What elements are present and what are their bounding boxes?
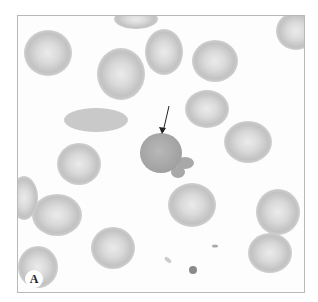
red-blood-cell [57, 143, 101, 185]
abnormal-cell [140, 133, 194, 178]
red-blood-cell [256, 189, 300, 235]
blood-smear-image [18, 16, 304, 292]
red-blood-cell [224, 121, 272, 163]
platelet [189, 266, 197, 274]
red-blood-cell [248, 233, 292, 273]
arrow-icon [159, 106, 169, 134]
red-blood-cell [114, 16, 158, 29]
red-blood-cell [32, 194, 82, 236]
red-blood-cell [24, 30, 72, 76]
red-blood-cell [64, 108, 128, 132]
red-blood-cell [185, 90, 229, 128]
debris [164, 256, 173, 264]
red-blood-cell [145, 29, 183, 75]
micrograph-frame: A [17, 15, 305, 293]
red-blood-cell [192, 40, 238, 82]
panel-label: A [25, 270, 43, 288]
red-blood-cell [276, 16, 304, 50]
red-blood-cell [97, 48, 145, 100]
debris [212, 245, 218, 248]
red-blood-cell [91, 227, 135, 269]
red-blood-cell [168, 183, 216, 227]
